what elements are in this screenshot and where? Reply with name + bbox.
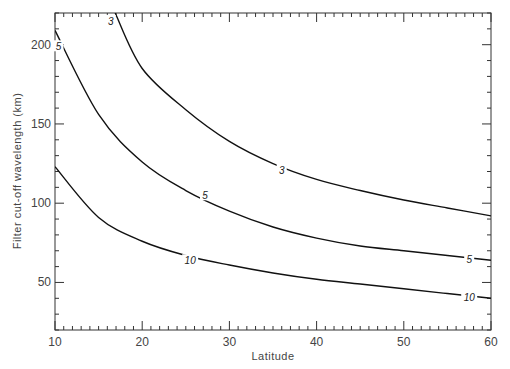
curve-label: 5: [202, 190, 208, 201]
curve-label: 10: [185, 255, 197, 266]
y-axis-title: Filter cut-off wavelength (km): [11, 93, 23, 250]
y-tick-label: 100: [31, 196, 51, 210]
curve-label: 5: [466, 254, 472, 265]
plot-frame: [55, 13, 491, 330]
curve-10: [55, 167, 491, 299]
x-tick-label: 40: [310, 335, 324, 349]
x-tick-label: 50: [397, 335, 411, 349]
curve-label: 5: [56, 41, 62, 52]
line-chart: 10203040506050100150200 351035510 Latitu…: [0, 0, 510, 369]
curve-labels: 351035510: [53, 15, 477, 303]
curve-label: 10: [464, 292, 476, 303]
plot-area: [55, 13, 491, 330]
x-tick-label: 30: [223, 335, 237, 349]
x-tick-label: 10: [48, 335, 62, 349]
curve-label: 3: [279, 165, 285, 176]
y-tick-label: 50: [38, 275, 52, 289]
y-tick-label: 150: [31, 117, 51, 131]
y-tick-label: 200: [31, 38, 51, 52]
x-tick-label: 60: [484, 335, 498, 349]
curves: [55, 13, 491, 298]
x-axis-title: Latitude: [251, 350, 294, 362]
x-tick-label: 20: [136, 335, 150, 349]
axis-ticks: 10203040506050100150200: [31, 13, 498, 349]
curve-5: [55, 30, 491, 260]
curve-3: [115, 13, 491, 216]
curve-label: 3: [108, 16, 114, 27]
